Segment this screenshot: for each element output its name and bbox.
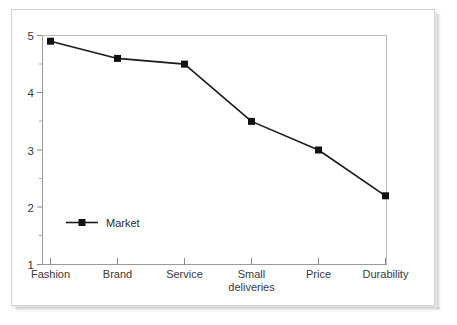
y-tick-2: 2 [28,202,34,214]
legend-swatch-marker [79,219,86,226]
data-point [248,118,255,125]
line-chart: 5 4 3 2 1 Fashion Brand Service Small de… [0,0,457,325]
y-tick-4: 4 [28,87,35,99]
series-line-market [51,41,386,196]
data-point [47,38,54,45]
x-tick-brand: Brand [103,268,132,280]
y-axis-ticks [37,36,42,265]
data-point [382,192,389,199]
x-tick-fashion: Fashion [31,268,70,280]
y-tick-5: 5 [28,30,34,42]
x-tick-service: Service [166,268,203,280]
x-tick-price: Price [306,268,331,280]
x-axis-tick-labels: Fashion Brand Service Small deliveries P… [31,268,409,293]
legend-label-market: Market [106,217,140,229]
x-tick-durability: Durability [363,268,409,280]
data-point [114,55,121,62]
y-tick-3: 3 [28,145,34,157]
chart-page: 5 4 3 2 1 Fashion Brand Service Small de… [0,0,457,325]
x-tick-deliveries: deliveries [228,281,275,293]
x-tick-small: Small [238,268,266,280]
series-markers-market [47,38,389,200]
data-point [315,147,322,154]
chart-legend: Market [66,217,140,229]
x-axis-ticks [51,258,386,265]
data-point [181,61,188,68]
y-axis-tick-labels: 5 4 3 2 1 [28,30,35,271]
